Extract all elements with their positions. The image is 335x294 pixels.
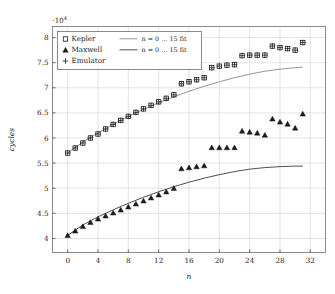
legend-fit-label-kepler: n = 0 … 15 fit	[142, 35, 187, 43]
data-point-maxwell	[262, 132, 267, 137]
legend-label-kepler: Kepler	[72, 34, 97, 43]
data-point-maxwell	[217, 145, 222, 150]
y-tick-label: 8	[44, 33, 49, 42]
data-point-maxwell	[232, 145, 237, 150]
data-point-maxwell	[95, 216, 100, 221]
data-point-maxwell	[118, 207, 123, 212]
data-point-maxwell	[285, 121, 290, 126]
chart-container: 04812162024283244.555.566.577.58ncycles·…	[0, 0, 335, 294]
y-tick-label: 4.5	[37, 209, 49, 218]
data-point-maxwell	[224, 145, 229, 150]
data-point-maxwell	[247, 129, 252, 134]
x-tick-label: 12	[154, 256, 163, 265]
x-tick-label: 4	[96, 256, 101, 265]
y-axis-title: cycles	[7, 128, 16, 151]
data-point-maxwell	[277, 119, 282, 124]
data-point-maxwell	[300, 111, 305, 116]
data-point-maxwell	[270, 116, 275, 121]
data-point-maxwell	[141, 198, 146, 203]
legend-box: Keplern = 0 … 15 fitMaxwelln = 0 … 15 fi…	[58, 32, 202, 70]
data-point-maxwell	[209, 145, 214, 150]
y-tick-label: 4	[44, 234, 49, 243]
y-tick-label: 5	[44, 184, 49, 193]
cycles-vs-n-scatter-chart: 04812162024283244.555.566.577.58ncycles·…	[0, 0, 335, 294]
y-tick-label: 7.5	[37, 58, 49, 67]
series-maxwell	[65, 111, 305, 237]
data-point-maxwell	[194, 164, 199, 169]
data-point-maxwell	[239, 128, 244, 133]
y-tick-label: 6.5	[37, 108, 49, 117]
y-tick-label: 6	[44, 134, 49, 143]
y-tick-label: 5.5	[37, 159, 49, 168]
data-point-maxwell	[179, 166, 184, 171]
x-tick-label: 28	[275, 256, 285, 265]
legend-label-maxwell: Maxwell	[72, 45, 103, 54]
x-tick-label: 0	[65, 256, 70, 265]
fit-curve-maxwell	[68, 166, 303, 235]
fit-curves	[68, 67, 303, 235]
y-axis-multiplier: ·104	[53, 15, 68, 24]
legend-label-emulator: Emulator	[72, 56, 106, 65]
x-axis-title: n	[187, 272, 192, 281]
x-tick-label: 16	[184, 256, 194, 265]
x-tick-label: 8	[126, 256, 131, 265]
data-point-maxwell	[65, 233, 70, 238]
data-point-maxwell	[148, 195, 153, 200]
x-tick-label: 24	[245, 256, 255, 265]
data-point-maxwell	[292, 125, 297, 130]
y-tick-label: 7	[44, 83, 49, 92]
x-tick-label: 20	[215, 256, 225, 265]
data-point-maxwell	[133, 201, 138, 206]
data-point-maxwell	[126, 204, 131, 209]
x-tick-label: 32	[306, 256, 315, 265]
legend-fit-label-maxwell: n = 0 … 15 fit	[142, 46, 187, 54]
fit-curve-kepler	[68, 67, 303, 153]
data-point-maxwell	[201, 163, 206, 168]
data-point-maxwell	[255, 130, 260, 135]
data-point-maxwell	[186, 165, 191, 170]
